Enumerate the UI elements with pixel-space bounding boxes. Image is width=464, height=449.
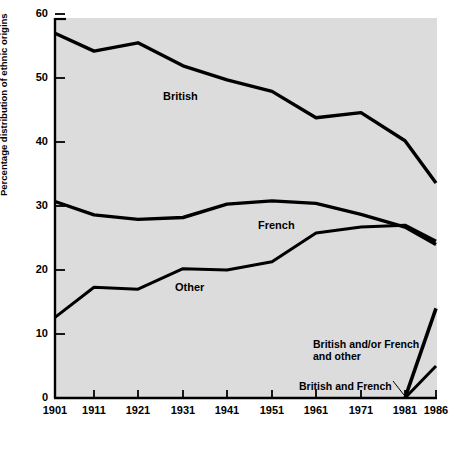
ethnic-origins-line-chart: Percentage distribution of ethnic origin… — [0, 0, 464, 449]
chart-vector-layer — [0, 0, 464, 449]
leader-line-british-and-french — [393, 381, 404, 395]
series-line-french — [55, 201, 436, 245]
series-line-british-andor-french-and-other — [405, 308, 436, 398]
series-line-british — [55, 33, 436, 183]
series-line-other — [55, 225, 436, 317]
